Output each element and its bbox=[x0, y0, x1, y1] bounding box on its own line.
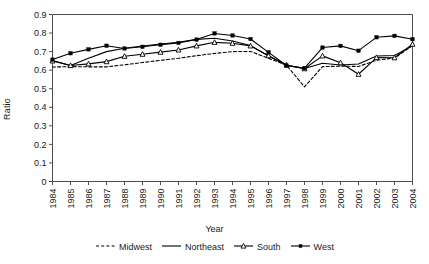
svg-text:1997: 1997 bbox=[282, 189, 292, 209]
svg-text:0.4: 0.4 bbox=[34, 102, 47, 112]
marker-filled-square bbox=[339, 44, 342, 47]
legend-item-west[interactable]: West bbox=[290, 241, 334, 253]
legend-label: Northeast bbox=[185, 243, 224, 252]
marker-open-triangle bbox=[194, 43, 199, 48]
svg-text:1988: 1988 bbox=[120, 189, 130, 209]
legend-key-west-icon bbox=[290, 241, 311, 253]
marker-open-triangle bbox=[248, 43, 253, 48]
marker-open-triangle bbox=[104, 59, 109, 64]
svg-text:0.7: 0.7 bbox=[34, 47, 47, 57]
marker-filled-square bbox=[411, 37, 414, 40]
marker-filled-square bbox=[195, 38, 198, 41]
marker-filled-square bbox=[267, 51, 270, 54]
svg-text:1984: 1984 bbox=[48, 189, 58, 209]
marker-open-triangle bbox=[212, 40, 217, 45]
y-axis-tick-labels: 00.10.20.30.40.50.60.70.80.9 bbox=[34, 10, 47, 187]
x-axis-ticks bbox=[53, 182, 413, 186]
axis-frame bbox=[53, 15, 413, 182]
marker-filled-square bbox=[357, 49, 360, 52]
marker-open-triangle bbox=[338, 60, 343, 65]
svg-text:1995: 1995 bbox=[246, 189, 256, 209]
svg-text:1993: 1993 bbox=[210, 189, 220, 209]
marker-filled-square bbox=[303, 66, 306, 69]
marker-filled-square bbox=[69, 52, 72, 55]
svg-text:0.5: 0.5 bbox=[34, 84, 47, 94]
legend-label: South bbox=[257, 243, 281, 252]
svg-text:0.1: 0.1 bbox=[34, 158, 47, 168]
svg-text:1990: 1990 bbox=[156, 189, 166, 209]
marker-filled-square bbox=[105, 44, 108, 47]
svg-text:2000: 2000 bbox=[336, 189, 346, 209]
svg-text:1989: 1989 bbox=[138, 189, 148, 209]
marker-filled-square bbox=[321, 46, 324, 49]
svg-text:0: 0 bbox=[41, 177, 46, 187]
marker-filled-square bbox=[141, 45, 144, 48]
marker-open-triangle bbox=[122, 54, 127, 59]
marker-filled-square bbox=[375, 36, 378, 39]
svg-text:1987: 1987 bbox=[102, 189, 112, 209]
svg-text:1992: 1992 bbox=[192, 189, 202, 209]
marker-open-triangle bbox=[158, 50, 163, 55]
marker-open-triangle bbox=[410, 42, 415, 47]
marker-filled-square bbox=[87, 48, 90, 51]
marker-filled-square bbox=[177, 41, 180, 44]
marker-filled-square bbox=[213, 32, 216, 35]
svg-text:0.2: 0.2 bbox=[34, 140, 47, 150]
marker-open-triangle bbox=[68, 63, 73, 68]
y-axis-title-text: Ratio bbox=[2, 98, 12, 120]
legend-item-south[interactable]: South bbox=[233, 241, 281, 253]
marker-open-triangle bbox=[320, 53, 325, 58]
x-axis-title: Year bbox=[0, 224, 429, 234]
legend-label: West bbox=[314, 243, 334, 252]
svg-text:1996: 1996 bbox=[264, 189, 274, 209]
marker-filled-square bbox=[51, 58, 54, 61]
svg-text:0.9: 0.9 bbox=[34, 10, 47, 20]
marker-open-triangle bbox=[86, 61, 91, 66]
svg-text:1999: 1999 bbox=[318, 189, 328, 209]
legend-label: Midwest bbox=[119, 243, 152, 252]
svg-text:1998: 1998 bbox=[300, 189, 310, 209]
legend-key-south-icon bbox=[233, 241, 254, 253]
marker-filled-square bbox=[159, 43, 162, 46]
chart-container: 00.10.20.30.40.50.60.70.80.9 19841985198… bbox=[0, 0, 429, 264]
data-series-group bbox=[50, 32, 415, 87]
y-axis-title: Ratio bbox=[2, 56, 12, 78]
svg-text:2001: 2001 bbox=[354, 189, 364, 209]
legend-item-northeast[interactable]: Northeast bbox=[161, 241, 224, 253]
marker-filled-square bbox=[123, 47, 126, 50]
svg-text:1991: 1991 bbox=[174, 189, 184, 209]
chart-legend: MidwestNortheastSouthWest bbox=[0, 241, 429, 253]
svg-text:2002: 2002 bbox=[372, 189, 382, 209]
legend-key-midwest-icon bbox=[95, 241, 116, 253]
legend-key-northeast-icon bbox=[161, 241, 182, 253]
marker-filled-square bbox=[285, 64, 288, 67]
marker-open-triangle bbox=[140, 52, 145, 57]
y-axis-ticks bbox=[49, 15, 53, 182]
marker-filled-square bbox=[249, 37, 252, 40]
marker-filled-square bbox=[231, 34, 234, 37]
svg-text:1994: 1994 bbox=[228, 189, 238, 209]
svg-text:2003: 2003 bbox=[390, 189, 400, 209]
legend-item-midwest[interactable]: Midwest bbox=[95, 241, 152, 253]
svg-text:0.3: 0.3 bbox=[34, 121, 47, 131]
marker-open-triangle bbox=[176, 47, 181, 52]
svg-text:0.6: 0.6 bbox=[34, 65, 47, 75]
marker-filled-square bbox=[393, 34, 396, 37]
svg-text:2004: 2004 bbox=[408, 189, 418, 209]
x-axis-tick-labels: 1984198519861987198819891990199119921993… bbox=[48, 189, 418, 209]
svg-text:1985: 1985 bbox=[66, 189, 76, 209]
svg-text:0.8: 0.8 bbox=[34, 28, 47, 38]
svg-text:1986: 1986 bbox=[84, 189, 94, 209]
